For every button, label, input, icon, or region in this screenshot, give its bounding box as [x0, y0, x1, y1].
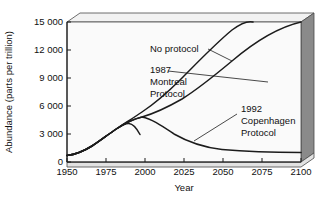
- x-tick-label-2000: 2000: [134, 166, 155, 177]
- annotation-montreal-line-1: 1987: [150, 64, 171, 75]
- x-tick-label-1950: 1950: [56, 166, 77, 177]
- y-tick-label-3000: 3 000: [39, 128, 63, 139]
- chart-3d-side-panel: [301, 13, 314, 162]
- abundance-line-chart: 15 000 12 000 9 000 6 000 3 000 0 1950 1…: [0, 0, 333, 201]
- annotation-no-protocol: No protocol: [150, 43, 199, 54]
- annotation-copenhagen-line-1: 1992: [241, 103, 262, 114]
- figure-container: 15 000 12 000 9 000 6 000 3 000 0 1950 1…: [0, 0, 333, 201]
- y-tick-label-6000: 6 000: [39, 100, 63, 111]
- y-tick-label-15000: 15 000: [34, 16, 63, 27]
- annotation-montreal-line-3: Protocol: [150, 88, 185, 99]
- x-tick-label-1975: 1975: [95, 166, 116, 177]
- x-axis-title: Year: [174, 182, 193, 193]
- y-tick-label-9000: 9 000: [39, 72, 63, 83]
- annotation-montreal-line-2: Montreal: [150, 76, 187, 87]
- chart-3d-top-panel: [67, 13, 314, 22]
- x-tick-label-2100: 2100: [290, 166, 311, 177]
- x-tick-label-2075: 2075: [251, 166, 272, 177]
- x-tick-label-2025: 2025: [173, 166, 194, 177]
- y-axis-title: Abundance (parts per trillion): [3, 31, 14, 153]
- x-tick-label-2050: 2050: [212, 166, 233, 177]
- y-tick-label-12000: 12 000: [34, 44, 63, 55]
- annotation-copenhagen-line-2: Copenhagen: [241, 115, 295, 126]
- annotation-copenhagen-line-3: Protocol: [241, 127, 276, 138]
